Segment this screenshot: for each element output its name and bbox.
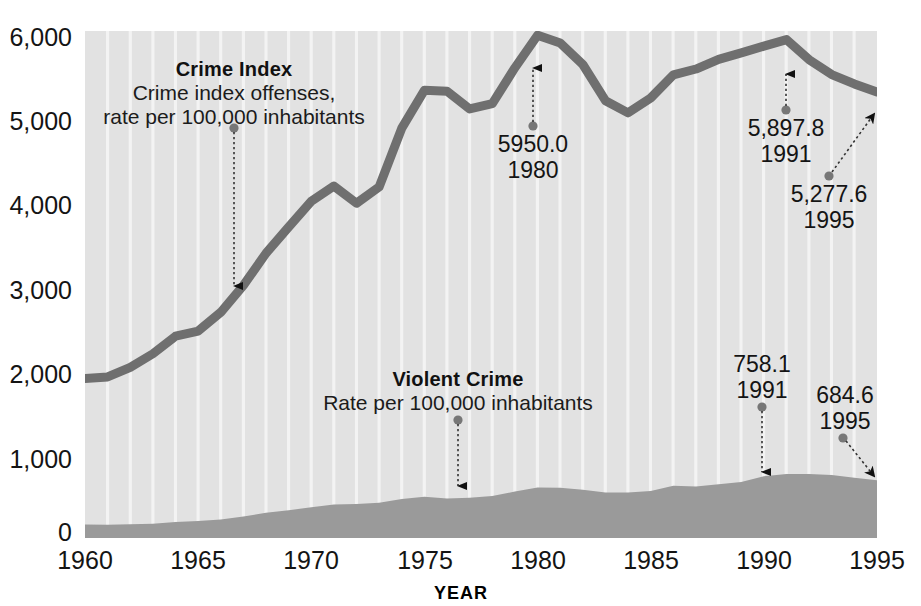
legend-crime-index: Crime Index Crime index offenses, rate p… (84, 58, 384, 128)
legend-crime-index-line1: Crime index offenses, (84, 81, 384, 105)
callout-vc-1995-value: 684.6 (795, 383, 895, 409)
legend-violent-crime-line1: Rate per 100,000 inhabitants (308, 391, 608, 415)
x-tick-1975: 1975 (385, 546, 465, 575)
x-tick-1990: 1990 (724, 546, 804, 575)
callout-ci-1980-year: 1980 (471, 158, 595, 184)
legend-violent-crime: Violent Crime Rate per 100,000 inhabitan… (308, 368, 608, 415)
callout-crime-index-1980: 5950.0 1980 (471, 132, 595, 184)
x-tick-1960: 1960 (45, 546, 125, 575)
y-tick-6000: 6,000 (0, 23, 72, 52)
leader-dot-ci-1991 (781, 105, 790, 114)
leader-dot-ci-1995 (824, 171, 833, 180)
callout-vc-1991-value: 758.1 (712, 352, 812, 378)
x-axis-title: YEAR (411, 583, 511, 604)
leader-dot-ci-1980 (528, 121, 537, 130)
legend-crime-index-title: Crime Index (84, 58, 384, 81)
x-tick-1995: 1995 (837, 546, 917, 575)
legend-violent-crime-title: Violent Crime (308, 368, 608, 391)
callout-violent-crime-1995: 684.6 1995 (795, 383, 895, 435)
callout-crime-index-1991: 5,897.8 1991 (716, 116, 856, 168)
legend-crime-index-line2: rate per 100,000 inhabitants (84, 105, 384, 129)
callout-ci-1995-value: 5,277.6 (759, 182, 899, 208)
callout-ci-1991-value: 5,897.8 (716, 116, 856, 142)
callout-ci-1980-value: 5950.0 (471, 132, 595, 158)
callout-vc-1995-year: 1995 (795, 409, 895, 435)
callout-ci-1995-year: 1995 (759, 208, 899, 234)
y-tick-1000: 1,000 (0, 445, 72, 474)
x-tick-1985: 1985 (611, 546, 691, 575)
y-tick-2000: 2,000 (0, 360, 72, 389)
y-tick-5000: 5,000 (0, 107, 72, 136)
x-tick-1980: 1980 (498, 546, 578, 575)
callout-crime-index-1995: 5,277.6 1995 (759, 182, 899, 234)
callout-ci-1991-year: 1991 (716, 142, 856, 168)
y-tick-0: 0 (0, 518, 72, 547)
crime-statistics-chart: 6,000 5,000 4,000 3,000 2,000 1,000 0 19… (0, 0, 921, 606)
y-tick-3000: 3,000 (0, 276, 72, 305)
y-tick-4000: 4,000 (0, 191, 72, 220)
leader-dot-violent-crime-legend (453, 415, 462, 424)
leader-dot-vc-1991 (757, 402, 766, 411)
x-tick-1965: 1965 (158, 546, 238, 575)
x-tick-1970: 1970 (271, 546, 351, 575)
